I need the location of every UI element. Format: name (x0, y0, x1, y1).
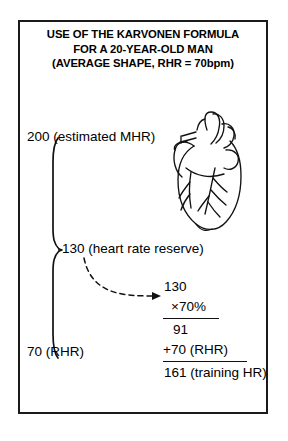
label-estimated-mhr: 200 (estimated MHR) (27, 130, 155, 144)
calculation-block: 130 ×70% 91 +70 (RHR) 161 (training HR) (163, 277, 267, 383)
calc-operator-1: ×70% (163, 297, 267, 317)
label-heart-rate-reserve: 130 (heart rate reserve) (62, 242, 204, 256)
karvonen-formula-figure: USE OF THE KARVONEN FORMULA FOR A 20-YEA… (0, 0, 288, 441)
label-resting-heart-rate: 70 (RHR) (27, 345, 84, 359)
title-line-1: USE OF THE KARVONEN FORMULA (18, 27, 268, 42)
title-line-2: FOR A 20-YEAR-OLD MAN (18, 42, 268, 57)
calc-divider-1 (163, 318, 219, 319)
calc-divider-2 (163, 361, 247, 362)
calc-result: 161 (training HR) (163, 363, 267, 383)
title-line-3: (AVERAGE SHAPE, RHR = 70bpm) (18, 56, 268, 71)
calc-subtotal: 91 (163, 320, 267, 340)
calc-operand-1: 130 (163, 277, 267, 297)
figure-title: USE OF THE KARVONEN FORMULA FOR A 20-YEA… (18, 27, 268, 71)
calc-operand-2: +70 (RHR) (163, 340, 267, 360)
